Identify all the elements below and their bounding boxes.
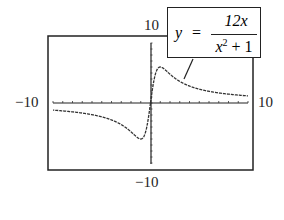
equation-equals: = xyxy=(192,24,201,42)
function-curve-negative xyxy=(53,103,151,139)
x-max-label: 10 xyxy=(258,95,273,110)
denominator-base: x xyxy=(215,38,222,55)
equation-y: y xyxy=(175,24,182,42)
denominator-rest: + 1 xyxy=(228,38,253,55)
x-min-label: −10 xyxy=(15,95,38,110)
annotation-pointer xyxy=(184,59,193,79)
fraction-bar xyxy=(211,34,257,35)
equation-numerator: 12x xyxy=(214,12,258,30)
equation-denominator: x2 + 1 xyxy=(210,37,258,56)
y-min-label: −10 xyxy=(135,175,158,190)
equation-label-box: y = 12x x2 + 1 xyxy=(167,7,261,58)
function-curve-positive xyxy=(151,67,249,103)
numerator-text: 12x xyxy=(224,12,247,29)
y-max-label: 10 xyxy=(144,18,159,33)
